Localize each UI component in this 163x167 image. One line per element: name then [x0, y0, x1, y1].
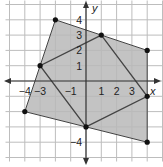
x-axis-arrow-left-icon — [4, 78, 11, 84]
x-tick-label: 1 — [98, 85, 104, 97]
vertex-point — [99, 33, 104, 38]
x-tick-label: −4 — [19, 85, 31, 97]
vertex-point — [38, 63, 43, 68]
x-tick-label: 3 — [129, 85, 135, 97]
vertex-point — [22, 109, 27, 114]
vertex-point — [145, 140, 150, 145]
x-axis-arrow-right-icon — [154, 78, 161, 84]
x-tick-label: −1 — [65, 85, 77, 97]
y-tick-label: 3 — [76, 29, 82, 41]
x-tick-label: −3 — [34, 85, 46, 97]
vertex-point — [83, 124, 88, 129]
y-axis-label: y — [91, 2, 99, 14]
vertex-point — [53, 17, 58, 22]
x-tick-label: 2 — [114, 85, 120, 97]
y-axis-arrow-down-icon — [83, 158, 89, 165]
vertex-point — [145, 48, 150, 53]
y-tick-label: 2 — [76, 44, 82, 56]
coordinate-graph: −4−3−11234321−4 x y — [0, 0, 163, 167]
y-tick-label: −4 — [70, 136, 82, 148]
y-tick-label: 1 — [76, 60, 82, 72]
y-tick-label: 4 — [76, 14, 82, 26]
x-axis-label: x — [149, 85, 156, 97]
